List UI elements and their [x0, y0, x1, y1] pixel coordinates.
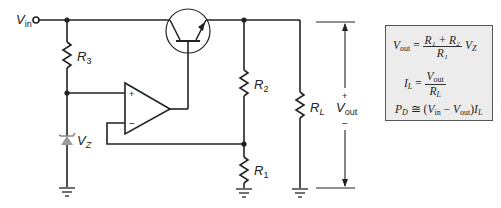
r2-label: R2: [254, 77, 268, 94]
vz-label: VZ: [77, 133, 92, 150]
r1-label: R1: [254, 163, 268, 180]
equation-pd: PD ≅ (Vin − Vout)IL: [395, 102, 482, 117]
junction-dots: [64, 17, 246, 146]
r3-label: R3: [77, 49, 91, 66]
resistor-r2: [240, 70, 248, 96]
vout-label: Vout: [336, 100, 358, 117]
vout-plus: +: [342, 91, 347, 101]
rl-label: RL: [310, 100, 324, 117]
vin-label: Vin: [16, 12, 32, 29]
vout-arrowhead-up: [342, 23, 348, 31]
vout-minus: −: [342, 118, 348, 129]
equation-box: Vout = R₁ + R₂R₁ VZ IL = VoutRL PD ≅ (Vi…: [385, 25, 493, 121]
resistor-r3: [63, 42, 71, 68]
ground-symbols: [59, 188, 308, 197]
equation-il: IL = VoutRL: [404, 70, 446, 99]
equation-vout: Vout = R₁ + R₂R₁ VZ: [393, 34, 476, 59]
transistor-collector: [170, 20, 180, 40]
vin-terminal: [33, 17, 39, 23]
opamp-minus: −: [129, 118, 135, 129]
resistor-r1: [240, 157, 248, 183]
opamp-plus: +: [129, 89, 134, 99]
vout-arrowhead-down: [342, 179, 348, 187]
resistor-rl: [296, 92, 304, 118]
transistor-emitter-arrow: [198, 22, 205, 31]
zener-diode: [61, 136, 73, 145]
